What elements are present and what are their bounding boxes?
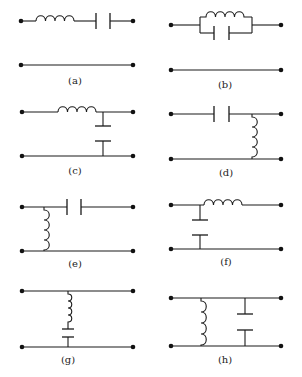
terminal-dot (279, 247, 284, 252)
capacitor-icon (214, 26, 229, 40)
panel-label-b: (b) (218, 79, 232, 90)
inductor-icon (204, 200, 242, 205)
circuit-g: (g) (20, 289, 136, 365)
inductor-icon (58, 107, 96, 112)
circuit-c: (c) (20, 107, 136, 176)
capacitor-icon (95, 126, 111, 141)
circuit-b: (b) (169, 12, 284, 90)
terminal-dot (131, 289, 136, 294)
capacitor-icon (67, 199, 81, 215)
two-port-networks-figure: (a) (b) (c) (0, 0, 302, 377)
terminal-dot (131, 63, 136, 68)
panel-label-c: (c) (68, 165, 82, 176)
terminal-dot (131, 345, 136, 350)
terminal-dot (279, 203, 284, 208)
capacitor-icon (96, 13, 110, 29)
circuit-f: (f) (169, 200, 284, 267)
capacitor-icon (237, 314, 253, 330)
terminal-dot (131, 110, 136, 115)
inductor-icon (68, 291, 72, 329)
terminal-dot (131, 249, 136, 254)
inductor-icon (252, 114, 257, 159)
terminal-dot (131, 205, 136, 210)
inductor-icon (201, 298, 206, 346)
terminal-dot (279, 296, 284, 301)
inductor-icon (36, 16, 74, 21)
circuit-a: (a) (19, 13, 136, 86)
panel-label-a: (a) (68, 75, 82, 86)
terminal-dot (131, 19, 136, 24)
terminal-dot (131, 154, 136, 159)
terminal-dot (279, 157, 284, 162)
inductor-icon (44, 207, 49, 251)
panel-label-f: (f) (220, 256, 232, 267)
circuit-d: (d) (169, 106, 284, 178)
panel-label-g: (g) (61, 354, 75, 365)
capacitor-icon (214, 106, 229, 122)
capacitor-icon (62, 329, 74, 337)
terminal-dot (279, 344, 284, 349)
panel-label-h: (h) (218, 354, 232, 365)
terminal-dot (279, 68, 284, 73)
panel-label-d: (d) (219, 167, 233, 178)
panel-label-e: (e) (68, 258, 82, 269)
terminal-dot (279, 112, 284, 117)
circuit-h: (h) (169, 296, 284, 365)
circuit-e: (e) (20, 199, 136, 269)
capacitor-icon (192, 220, 208, 235)
inductor-icon (200, 12, 252, 17)
terminal-dot (279, 23, 284, 28)
